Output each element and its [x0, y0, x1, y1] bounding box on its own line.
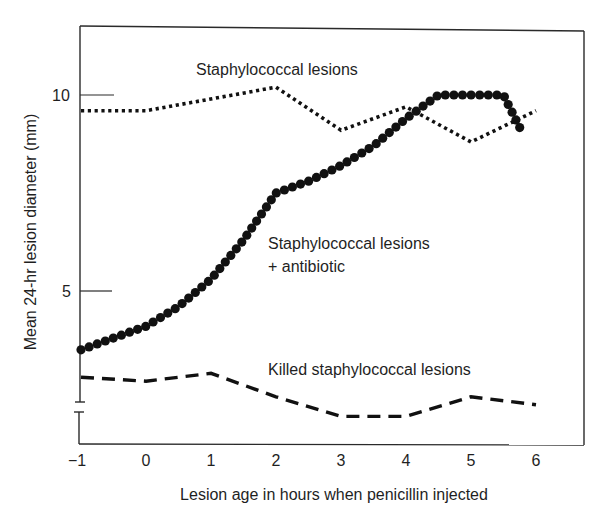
series-killed-staphylococcal-lesions — [81, 373, 536, 416]
data-dot — [272, 188, 281, 197]
chart: 10 5 Mean 24-hr lesion diameter (mm) −1 … — [0, 0, 600, 516]
y-ticks — [80, 95, 114, 291]
data-dot — [101, 336, 110, 345]
annotation-antibiotic-line1: Staphylococcal lesions — [268, 235, 430, 252]
data-dot — [458, 90, 467, 99]
annotation-antibiotic-line2: + antibiotic — [268, 258, 345, 275]
data-dot — [484, 90, 493, 99]
data-dot — [109, 334, 118, 343]
data-dot — [93, 339, 102, 348]
annotation-staphylococcal-lesions: Staphylococcal lesions — [196, 61, 358, 78]
y-axis-label: Mean 24-hr lesion diameter (mm) — [22, 114, 39, 351]
data-dot — [475, 90, 484, 99]
data-dot — [288, 182, 297, 191]
y-tick-label-10: 10 — [52, 87, 70, 104]
x-tick-label: 3 — [337, 452, 346, 469]
y-tick-label-5: 5 — [62, 283, 71, 300]
x-axis-label: Lesion age in hours when penicillin inje… — [180, 486, 488, 503]
data-dot — [296, 180, 305, 189]
annotation-killed-lesions: Killed staphylococcal lesions — [268, 361, 471, 378]
x-tick-label: 5 — [467, 452, 476, 469]
dashed-line — [81, 373, 536, 416]
data-dot — [515, 123, 524, 132]
x-tick-label: −1 — [68, 452, 86, 469]
data-dot — [85, 342, 94, 351]
data-dot — [304, 177, 313, 186]
data-dot — [467, 90, 476, 99]
series-staphylococcal-lesions-antibiotic — [76, 90, 524, 354]
data-dot — [133, 325, 142, 334]
data-dot — [449, 90, 458, 99]
y-axis-break-icon — [74, 402, 85, 412]
data-dot — [433, 91, 442, 100]
x-tick-labels: −1 0 1 2 3 4 5 6 — [68, 452, 541, 469]
data-dot — [117, 331, 126, 340]
data-dot — [125, 328, 134, 337]
data-dot — [320, 169, 329, 178]
x-tick-label: 1 — [207, 452, 216, 469]
x-tick-label: 6 — [532, 452, 541, 469]
data-dot — [76, 345, 85, 354]
x-tick-label: 0 — [142, 452, 151, 469]
data-dot — [441, 90, 450, 99]
x-tick-label: 4 — [402, 452, 411, 469]
x-tick-label: 2 — [272, 452, 281, 469]
data-dot — [280, 185, 289, 194]
